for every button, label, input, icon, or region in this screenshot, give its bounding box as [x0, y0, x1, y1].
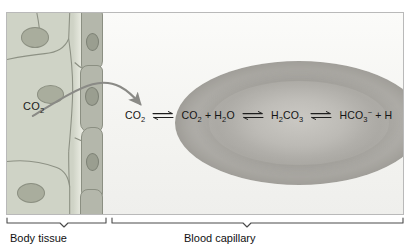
equilibrium-arrow-icon — [309, 111, 333, 120]
co2-tissue-label: CO2 — [23, 100, 44, 115]
brace-blood-capillary — [112, 218, 403, 227]
capillary-wall — [79, 13, 105, 214]
co2-tissue-sub: 2 — [40, 106, 44, 115]
illustration-panel: CO2 CO2 CO2 + H2O H2CO3 — [6, 12, 404, 215]
equation-term-co2-dissolved: CO2 — [125, 109, 145, 121]
equation-term-bicarbonate: HCO3− + H — [340, 109, 393, 121]
region-braces — [0, 216, 416, 232]
equation-term-co2-plus-water: CO2 + H2O — [182, 109, 235, 121]
tissue-nucleus — [17, 183, 45, 203]
endothelial-nucleus — [86, 33, 99, 51]
term-sub: 2 — [141, 115, 145, 124]
term-join: + H — [202, 109, 222, 121]
equation-term-carbonic-acid: H2CO3 — [271, 109, 303, 121]
tissue-nucleus — [21, 27, 49, 48]
term-tail: O — [226, 109, 234, 121]
endothelial-nucleus — [86, 153, 99, 171]
term-base: H — [271, 109, 279, 121]
caption-body-tissue: Body tissue — [10, 232, 67, 244]
term-base: CO — [182, 109, 198, 121]
equilibrium-arrow-icon — [241, 111, 265, 120]
caption-blood-capillary: Blood capillary — [184, 232, 256, 244]
term-base: HCO — [340, 109, 364, 121]
brace-body-tissue — [7, 218, 106, 227]
endothelial-cell — [80, 189, 103, 215]
term-join: CO — [283, 109, 299, 121]
endothelial-nucleus — [85, 87, 99, 106]
term-tail: + H — [372, 109, 392, 121]
term-sub: 3 — [299, 115, 303, 124]
equilibrium-arrow-icon — [151, 111, 175, 120]
carbonic-anhydrase-equation: CO2 CO2 + H2O H2CO3 — [125, 107, 392, 124]
co2-tissue-base: CO — [23, 100, 40, 112]
term-base: CO — [125, 109, 141, 121]
figure-root: CO2 CO2 CO2 + H2O H2CO3 — [0, 0, 416, 251]
